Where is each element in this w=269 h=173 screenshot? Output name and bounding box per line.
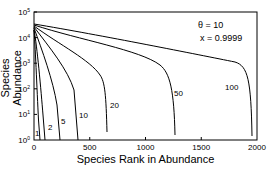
x-tick-label: 0 [32, 143, 37, 152]
y-axis-title: Species Abundance [0, 33, 23, 123]
curve-label-1: 1 [35, 129, 40, 138]
curve-label-100: 100 [225, 83, 239, 92]
x-tick-label: 1000 [137, 143, 155, 152]
y-tick-label: 100 [18, 135, 30, 145]
x-annotation: x = 0.9999 [200, 33, 242, 43]
curve-labels: 1 2 5 10 20 50 100 [35, 83, 239, 138]
curve-1 [34, 30, 40, 140]
curve-2 [34, 30, 45, 140]
theta-annotation: θ = 10 [198, 20, 223, 30]
curve-label-5: 5 [61, 117, 66, 126]
curve-50 [34, 25, 175, 135]
curve-label-50: 50 [174, 89, 183, 98]
annotations: θ = 10 x = 0.9999 [198, 20, 242, 43]
chart: 105 104 103 102 101 100 0 500 1000 1500 … [0, 0, 269, 173]
x-axis-title: Species Rank in Abundance [34, 153, 257, 165]
x-tick-label: 500 [83, 143, 97, 152]
curve-label-10: 10 [79, 111, 88, 120]
y-tick-label: 105 [18, 7, 30, 17]
curve-label-20: 20 [110, 101, 119, 110]
curve-label-2: 2 [48, 123, 53, 132]
x-axis: 0 500 1000 1500 2000 [32, 137, 267, 152]
x-tick-label: 2000 [248, 143, 266, 152]
plot-frame [34, 12, 257, 140]
x-tick-label: 1500 [192, 143, 210, 152]
